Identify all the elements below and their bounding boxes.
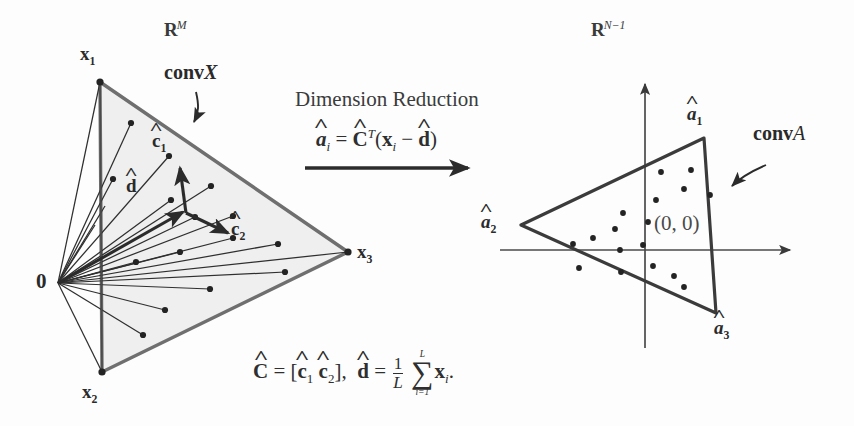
left-convex-hull: [100, 82, 348, 372]
vertex-label-alpha3: a3: [714, 318, 729, 342]
left-vertex-dot-x3: [344, 248, 351, 255]
right-data-point: [618, 269, 624, 275]
conv-a-pointer-arrow: [732, 165, 766, 186]
conv-x-label: convX: [164, 62, 217, 82]
right-data-point: [645, 219, 651, 225]
right-data-point: [617, 247, 623, 253]
left-data-point: [162, 307, 168, 313]
right-data-point: [576, 265, 582, 271]
vertex-label-x2: x2: [82, 382, 97, 406]
left-data-point: [140, 332, 146, 338]
left-data-point: [110, 176, 116, 182]
right-data-point: [658, 169, 664, 175]
left-data-point: [128, 120, 134, 126]
left-data-point: [166, 153, 172, 159]
c1-hat-label: c1: [152, 131, 166, 155]
right-data-point: [570, 241, 576, 247]
right-data-point: [650, 263, 656, 269]
conv-x-pointer-arrow: [194, 92, 198, 122]
left-data-point: [208, 183, 214, 189]
dimension-reduction-figure: RM convX x1 x2 x3 0 c1 c2 d Dimension Re…: [0, 0, 854, 426]
right-data-point: [620, 210, 626, 216]
right-origin-label: (0, 0): [654, 213, 700, 234]
right-data-point: [612, 226, 618, 232]
dimension-reduction-title: Dimension Reduction: [295, 89, 479, 110]
left-data-point: [168, 197, 174, 203]
left-space-label: RM: [164, 20, 187, 39]
left-vertex-dot-x2: [98, 368, 105, 375]
left-data-point: [275, 241, 281, 247]
c2-hat-label: c2: [231, 219, 245, 243]
right-data-point: [681, 284, 687, 290]
right-data-point: [640, 242, 646, 248]
d-hat-label: d: [126, 176, 137, 195]
left-data-point: [207, 286, 213, 292]
left-data-point: [133, 259, 139, 265]
origin-label: 0: [36, 271, 47, 292]
vertex-label-x1: x1: [80, 44, 95, 68]
right-data-point: [671, 273, 677, 279]
right-data-point: [688, 167, 694, 173]
dimension-reduction-formula: ai = CT(xi − d): [316, 127, 437, 153]
right-space-label: RN−1: [591, 20, 625, 39]
right-data-point: [707, 192, 713, 198]
bottom-formula: C = [c1 c2], d = 1 L L ∑ i=1 xi.: [253, 350, 454, 396]
left-vertex-dot-x1: [96, 78, 103, 85]
one-over-L-fraction: 1 L: [393, 355, 403, 392]
left-triangle: [100, 82, 348, 372]
left-data-point: [177, 249, 183, 255]
right-data-point: [590, 235, 596, 241]
summation-operator: L ∑ i=1: [411, 350, 433, 396]
conv-a-label: convA: [753, 123, 805, 143]
right-data-point: [653, 197, 659, 203]
right-data-point: [681, 186, 687, 192]
left-data-point: [282, 269, 288, 275]
vertex-label-x3: x3: [357, 242, 372, 266]
vertex-label-alpha2: a2: [481, 212, 496, 236]
vertex-label-alpha1: a1: [687, 104, 702, 128]
